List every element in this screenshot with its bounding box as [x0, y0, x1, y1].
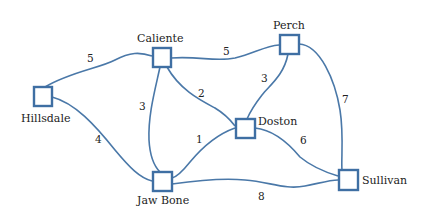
weight-caliente-doston: 2	[198, 87, 205, 99]
weight-caliente-perch: 5	[223, 45, 230, 57]
label-sullivan: Sullivan	[362, 174, 407, 187]
weight-perch-doston: 3	[261, 72, 268, 84]
label-perch: Perch	[273, 19, 305, 32]
weight-jawbone-sullivan: 8	[258, 190, 265, 202]
weight-doston-sullivan: 6	[300, 134, 307, 146]
node-hillsdale	[34, 87, 52, 106]
weight-doston-jawbone: 1	[196, 133, 203, 145]
edge-perch-sullivan	[299, 44, 342, 170]
node-doston	[236, 119, 255, 138]
weight-hillsdale-caliente: 5	[87, 52, 94, 64]
edge-caliente-jawbone	[149, 67, 160, 172]
label-doston: Doston	[258, 115, 297, 128]
edge-hillsdale-caliente	[45, 53, 152, 87]
node-sullivan	[339, 170, 358, 190]
edge-jawbone-sullivan	[172, 179, 338, 187]
edge-perch-doston	[247, 54, 288, 119]
node-perch	[280, 35, 299, 54]
weight-perch-sullivan: 7	[342, 93, 349, 105]
node-caliente	[153, 48, 171, 67]
label-caliente: Caliente	[137, 32, 184, 45]
edge-doston-jawbone	[172, 128, 235, 178]
edge-doston-sullivan	[255, 128, 338, 176]
weight-hillsdale-jawbone: 4	[95, 133, 102, 145]
edge-hillsdale-jawbone	[52, 97, 152, 181]
weight-caliente-jawbone: 3	[139, 100, 146, 112]
label-hillsdale: Hillsdale	[21, 112, 70, 125]
node-jawbone	[153, 172, 172, 191]
weighted-graph: 5 4 5 3 2 3 7 1 6 8 Hillsdale Caliente P…	[0, 0, 428, 220]
label-jawbone: Jaw Bone	[136, 194, 189, 207]
